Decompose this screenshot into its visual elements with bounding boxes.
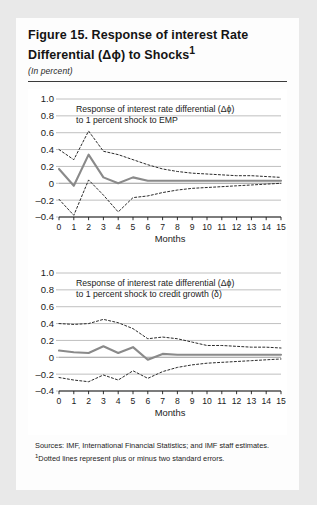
x-tick-label-7: 7 [160,396,165,406]
x-tick-label-3: 3 [101,222,106,232]
x-tick-label-1: 1 [71,396,76,406]
x-tick-label-14: 14 [261,222,271,232]
x-tick-label-13: 13 [247,396,257,406]
x-tick-label-1: 1 [71,222,76,232]
y-tick-label-5: 0 [49,178,54,189]
y-tick-label-7: –0.4 [36,212,55,223]
y-tick-label-3: 0.4 [41,318,54,329]
x-tick-label-5: 5 [131,222,136,232]
y-tick-label-5: 0 [49,352,54,363]
x-tick-label-15: 15 [276,222,286,232]
x-tick-label-12: 12 [232,222,242,232]
x-tick-label-10: 10 [202,222,212,232]
figure-title-line-2-text: Differential (Δϕ) to Shocks [28,48,189,62]
x-tick-label-4: 4 [116,222,121,232]
figure-subtitle: (In percent) [28,66,287,76]
y-tick-label-7: –0.4 [36,386,55,397]
x-tick-label-14: 14 [261,396,271,406]
y-tick-label-1: 0.8 [41,284,54,295]
chart-credit: 1.00.80.60.40.20–0.2–0.40123456789101112… [28,263,287,429]
charts-container: 1.00.80.60.40.20–0.2–0.40123456789101112… [28,89,287,435]
x-tick-label-8: 8 [175,222,180,232]
x-tick-label-6: 6 [145,396,150,406]
legend-line-2: to 1 percent shock to EMP [76,115,178,125]
x-tick-label-12: 12 [232,396,242,406]
x-tick-label-7: 7 [160,222,165,232]
legend-line-1: Response of interest rate differential (… [76,278,234,288]
y-tick-label-0: 1.0 [41,94,54,105]
x-tick-label-15: 15 [276,396,286,406]
legend-line-2: to 1 percent shock to credit growth (δ) [76,289,222,299]
y-tick-label-4: 0.2 [41,161,54,172]
y-tick-label-3: 0.4 [41,144,54,155]
x-tick-label-5: 5 [131,396,136,406]
title-divider [28,81,287,82]
y-tick-label-0: 1.0 [41,268,54,279]
chart-emp: 1.00.80.60.40.20–0.2–0.40123456789101112… [28,89,287,255]
x-axis-title: Months [155,407,186,418]
y-tick-label-6: –0.2 [36,195,55,206]
x-tick-label-11: 11 [217,396,226,406]
x-tick-label-11: 11 [217,222,226,232]
x-tick-label-4: 4 [116,396,121,406]
x-tick-label-6: 6 [145,222,150,232]
y-tick-label-4: 0.2 [41,335,54,346]
x-tick-label-0: 0 [57,396,62,406]
x-tick-label-13: 13 [247,222,257,232]
figure-title-footnote-marker: 1 [189,45,195,56]
y-tick-label-2: 0.6 [41,301,54,312]
figure-notes: Sources: IMF, International Financial St… [28,441,287,464]
x-tick-label-9: 9 [190,222,195,232]
x-tick-label-9: 9 [190,396,195,406]
sources-note: Sources: IMF, International Financial St… [28,441,287,451]
y-tick-label-2: 0.6 [41,127,54,138]
x-tick-label-10: 10 [202,396,212,406]
x-tick-label-0: 0 [57,222,62,232]
x-tick-label-8: 8 [175,396,180,406]
figure-card: Figure 15. Response of interest Rate Dif… [16,18,299,490]
y-tick-label-6: –0.2 [36,369,55,380]
figure-title: Figure 15. Response of interest Rate Dif… [28,28,287,63]
footnote-note: 1Dotted lines represent plus or minus tw… [28,451,287,464]
x-tick-label-2: 2 [86,396,91,406]
chart-svg-emp: 1.00.80.60.40.20–0.2–0.40123456789101112… [28,89,287,255]
chart-svg-credit: 1.00.80.60.40.20–0.2–0.40123456789101112… [28,263,287,429]
x-tick-label-3: 3 [101,396,106,406]
y-tick-label-1: 0.8 [41,110,54,121]
figure-title-line-2: Differential (Δϕ) to Shocks1 [28,43,287,63]
figure-page: Figure 15. Response of interest Rate Dif… [0,0,317,530]
x-axis-title: Months [155,233,186,244]
legend-line-1: Response of interest rate differential (… [76,104,234,114]
footnote-text: Dotted lines represent plus or minus two… [38,455,224,464]
x-tick-label-2: 2 [86,222,91,232]
figure-title-line-1: Figure 15. Response of interest Rate [28,28,287,43]
